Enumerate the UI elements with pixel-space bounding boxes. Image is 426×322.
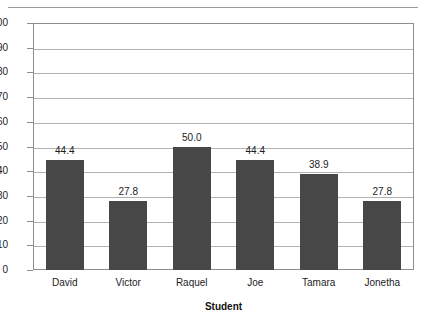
y-tick-label: 50 [0, 142, 8, 152]
y-tick-label: 30 [0, 191, 8, 201]
x-tick-label: Joe [224, 277, 288, 288]
y-tick-mark [27, 171, 33, 172]
y-tick-mark [27, 72, 33, 73]
y-tick-label: 70 [0, 92, 8, 102]
y-tick-mark [27, 245, 33, 246]
bar[interactable] [109, 201, 147, 270]
bar-chart-figure: 0102030405060708090100 44.427.850.044.43… [0, 0, 426, 322]
y-tick-mark [27, 221, 33, 222]
plot-area [33, 23, 414, 270]
bar-value-label: 50.0 [182, 132, 201, 143]
gridline [34, 98, 413, 99]
y-tick-label: 20 [0, 216, 8, 226]
x-tick-label: Victor [97, 277, 161, 288]
y-tick-label: 40 [0, 166, 8, 176]
gridline [34, 172, 413, 173]
bar-value-label: 44.4 [55, 145, 74, 156]
y-tick-label: 100 [0, 18, 8, 28]
bar[interactable] [46, 160, 84, 270]
y-tick-mark [27, 97, 33, 98]
x-tick-label: David [33, 277, 97, 288]
bar[interactable] [300, 174, 338, 270]
bar-value-label: 27.8 [373, 186, 392, 197]
y-tick-label: 10 [0, 240, 8, 250]
gridline [34, 148, 413, 149]
y-tick-label: 90 [0, 43, 8, 53]
x-axis-title: Student [33, 301, 414, 312]
y-tick-mark [27, 270, 33, 271]
bar[interactable] [363, 201, 401, 270]
bar-value-label: 38.9 [309, 159, 328, 170]
y-tick-label: 80 [0, 67, 8, 77]
gridline [34, 73, 413, 74]
x-tick-label: Jonetha [351, 277, 415, 288]
y-tick-mark [27, 196, 33, 197]
gridline [34, 246, 413, 247]
bar-value-label: 27.8 [119, 186, 138, 197]
header-divider [8, 7, 418, 8]
y-tick-mark [27, 48, 33, 49]
y-tick-label: 60 [0, 117, 8, 127]
bar-value-label: 44.4 [246, 145, 265, 156]
gridline [34, 222, 413, 223]
bar[interactable] [236, 160, 274, 270]
x-tick-label: Raquel [160, 277, 224, 288]
y-tick-label: 0 [0, 265, 8, 275]
x-tick-label: Tamara [287, 277, 351, 288]
y-tick-mark [27, 122, 33, 123]
gridline [34, 49, 413, 50]
y-tick-mark [27, 147, 33, 148]
gridline [34, 197, 413, 198]
bar[interactable] [173, 147, 211, 271]
gridline [34, 123, 413, 124]
y-tick-mark [27, 23, 33, 24]
